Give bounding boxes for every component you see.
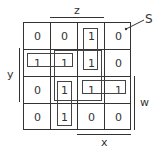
x-bar [77, 134, 131, 135]
group-row3-col3-4 [82, 80, 126, 94]
kmap-cell: 0 [24, 23, 51, 50]
y-label: y [7, 69, 14, 80]
x-label: x [101, 137, 108, 148]
kmap-cell: 0 [105, 23, 132, 50]
kmap-cell: 0 [105, 104, 132, 131]
y-bar [19, 48, 20, 102]
z-bar [50, 17, 104, 18]
w-bar [134, 76, 135, 130]
z-label: z [74, 5, 80, 16]
s-label: S [145, 13, 153, 25]
group-col2-rows3-4 [57, 81, 72, 126]
kmap-cell: 0 [51, 23, 78, 50]
kmap-cell: 0 [78, 104, 105, 131]
kmap-cell: 0 [24, 77, 51, 104]
w-label: w [140, 97, 149, 108]
kmap-cell: 0 [105, 50, 132, 77]
kmap-cell: 0 [24, 104, 51, 131]
group-col3-rows1-2 [83, 28, 98, 70]
